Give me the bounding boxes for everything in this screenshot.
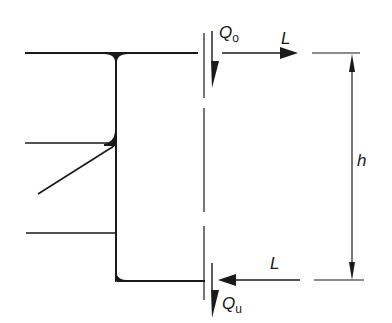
diagonal-brace-line (38, 146, 114, 194)
shear-top-arrowhead (211, 61, 219, 88)
height-label: h (357, 152, 366, 169)
force-bottom-arrowhead (218, 274, 236, 286)
force-top-arrowhead (280, 47, 298, 59)
shear-bottom-label: Qu (222, 295, 242, 315)
shear-top-label: Qo (219, 24, 239, 44)
diagram-canvas (0, 0, 392, 323)
dimension-top-arrowhead (349, 54, 355, 72)
force-top-label: L (281, 30, 290, 47)
top-fillet (104, 54, 128, 64)
dimension-bottom-arrowhead (349, 262, 355, 280)
shear-bottom-arrowhead (211, 290, 219, 318)
middle-fillet (104, 132, 117, 146)
force-bottom-label: L (270, 255, 279, 272)
